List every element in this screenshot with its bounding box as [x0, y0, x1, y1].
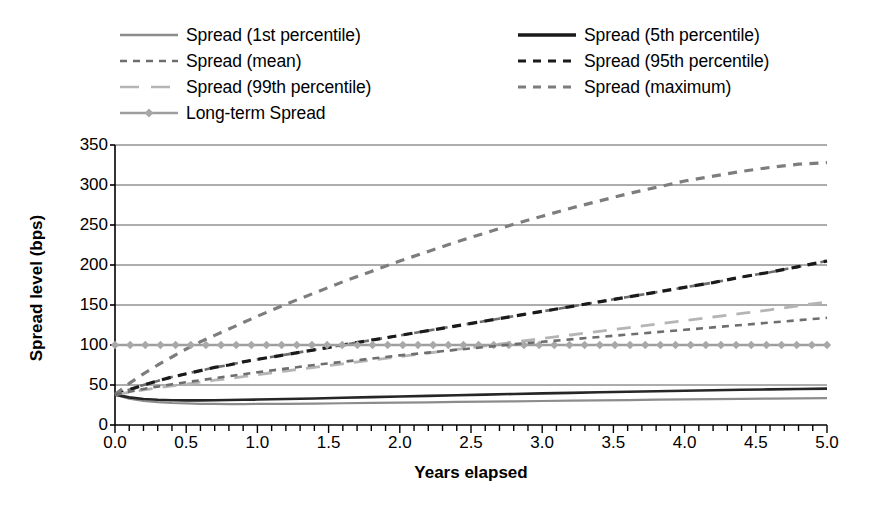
- legend-item-long-term-spread: Long-term Spread: [118, 100, 371, 126]
- line-longdash-lightgray-icon: [118, 80, 180, 94]
- series-marker-diamond: [656, 341, 664, 349]
- legend-label-spread-1st-percentile: Spread (1st percentile): [186, 25, 361, 45]
- spread-level-chart-figure: Spread (1st percentile) Spread (mean) Sp…: [0, 0, 875, 512]
- legend-item-spread-5th-percentile: Spread (5th percentile): [516, 22, 769, 48]
- legend-label-spread-5th-percentile: Spread (5th percentile): [584, 25, 760, 45]
- series-marker-diamond: [111, 341, 119, 349]
- legend-label-spread-maximum: Spread (maximum): [584, 77, 731, 97]
- legend-item-spread-95th-percentile: Spread (95th percentile): [516, 48, 769, 74]
- series-marker-diamond: [823, 341, 831, 349]
- series-marker-diamond: [596, 341, 604, 349]
- series-marker-diamond: [141, 341, 149, 349]
- series-marker-diamond: [717, 341, 725, 349]
- series-marker-diamond: [293, 341, 301, 349]
- series-marker-diamond: [808, 341, 816, 349]
- line-dashed-gray-icon: [118, 54, 180, 68]
- chart-legend: Spread (1st percentile) Spread (mean) Sp…: [118, 22, 858, 126]
- series-marker-diamond: [232, 341, 240, 349]
- series-marker-diamond: [414, 341, 422, 349]
- legend-column-left: Spread (1st percentile) Spread (mean) Sp…: [118, 22, 371, 126]
- legend-label-spread-95th-percentile: Spread (95th percentile): [584, 51, 769, 71]
- series-marker-diamond: [762, 341, 770, 349]
- series-marker-diamond: [580, 341, 588, 349]
- legend-item-spread-99th-percentile: Spread (99th percentile): [118, 74, 371, 100]
- series-marker-diamond: [686, 341, 694, 349]
- chart-plot-canvas: [0, 126, 875, 512]
- series-marker-diamond: [793, 341, 801, 349]
- series-marker-diamond: [611, 341, 619, 349]
- legend-item-spread-maximum: Spread (maximum): [516, 74, 769, 100]
- data-series-group: [111, 163, 831, 404]
- series-marker-diamond: [247, 341, 255, 349]
- series-marker-diamond: [262, 341, 270, 349]
- line-dashed-black-icon: [516, 54, 578, 68]
- series-marker-diamond: [641, 341, 649, 349]
- series-marker-diamond: [777, 341, 785, 349]
- series-marker-diamond: [444, 341, 452, 349]
- series-line: [115, 163, 827, 395]
- series-marker-diamond: [156, 341, 164, 349]
- series-marker-diamond: [732, 341, 740, 349]
- series-marker-diamond: [383, 341, 391, 349]
- plot-area-wrapper: Spread level (bps) Years elapsed 3503002…: [0, 126, 875, 512]
- series-marker-diamond: [338, 341, 346, 349]
- series-marker-diamond: [565, 341, 573, 349]
- series-marker-diamond: [702, 341, 710, 349]
- series-marker-diamond: [399, 341, 407, 349]
- series-marker-diamond: [171, 341, 179, 349]
- legend-column-right: Spread (5th percentile) Spread (95th per…: [516, 22, 769, 100]
- line-dashed-mediumgray-icon: [516, 80, 578, 94]
- legend-item-spread-1st-percentile: Spread (1st percentile): [118, 22, 371, 48]
- series-marker-diamond: [520, 341, 528, 349]
- line-solid-black-icon: [516, 28, 578, 42]
- series-marker-diamond: [429, 341, 437, 349]
- legend-item-spread-mean: Spread (mean): [118, 48, 371, 74]
- legend-label-spread-99th-percentile: Spread (99th percentile): [186, 77, 371, 97]
- series-marker-diamond: [626, 341, 634, 349]
- series-marker-diamond: [308, 341, 316, 349]
- series-marker-diamond: [671, 341, 679, 349]
- legend-label-long-term-spread: Long-term Spread: [186, 103, 325, 123]
- grid-lines: [115, 145, 827, 385]
- series-line: [115, 261, 827, 395]
- axis-lines: [115, 145, 827, 425]
- line-solid-gray-icon: [118, 28, 180, 42]
- series-line-mean: [115, 318, 827, 395]
- series-marker-diamond: [747, 341, 755, 349]
- series-marker-diamond: [217, 341, 225, 349]
- legend-label-spread-mean: Spread (mean): [186, 51, 301, 71]
- series-marker-diamond: [126, 341, 134, 349]
- series-marker-diamond: [277, 341, 285, 349]
- line-diamond-marker-icon: [118, 106, 180, 120]
- series-marker-diamond: [368, 341, 376, 349]
